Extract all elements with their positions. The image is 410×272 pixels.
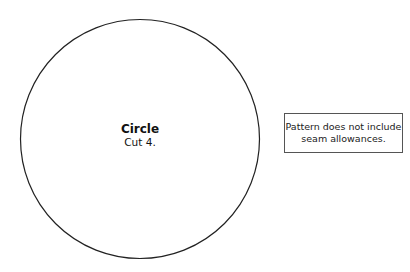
pattern-instruction: Cut 4. xyxy=(100,136,180,148)
note-line-2: seam allowances. xyxy=(286,133,402,145)
note-line-1: Pattern does not include xyxy=(286,121,402,133)
seam-allowance-note: Pattern does not include seam allowances… xyxy=(284,113,403,153)
pattern-label: Circle Cut 4. xyxy=(100,123,180,148)
pattern-title: Circle xyxy=(100,123,180,136)
